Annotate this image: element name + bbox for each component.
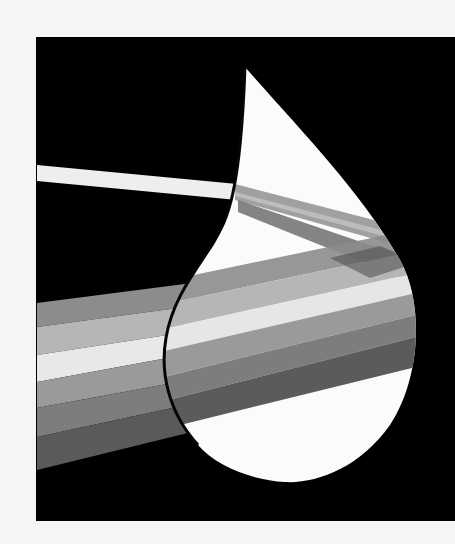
artwork-canvas — [0, 0, 455, 544]
